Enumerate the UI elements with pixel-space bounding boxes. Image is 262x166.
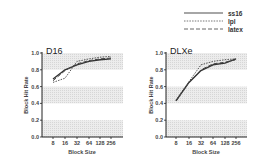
- figure: ss16 lpl latex 0.00.20.40.60.81.08163264…: [0, 0, 262, 166]
- x-tick-label: 8: [51, 140, 54, 146]
- y-axis-label: Block Hit Rate: [148, 76, 154, 113]
- shaded-band: [42, 87, 123, 104]
- legend: ss16 lpl latex: [184, 10, 243, 33]
- x-tick-label: 64: [210, 140, 217, 146]
- x-tick-label: 64: [86, 140, 93, 146]
- x-tick-label: 16: [62, 140, 68, 146]
- y-tick-label: 0.6: [31, 84, 39, 90]
- chart-title: DLXe: [170, 46, 193, 56]
- legend-item-lpl: lpl: [184, 18, 236, 26]
- y-tick-label: 0.4: [31, 100, 40, 106]
- x-tick-label: 8: [174, 140, 177, 146]
- legend-item-latex: latex: [184, 26, 243, 33]
- y-tick-label: 0.2: [155, 117, 163, 123]
- x-tick-label: 32: [74, 140, 80, 146]
- y-tick-label: 0.8: [155, 67, 163, 73]
- shaded-band: [166, 120, 247, 137]
- y-axis-label: Block Hit Rate: [23, 76, 29, 113]
- y-tick-label: 0.2: [31, 117, 39, 123]
- chart-dlxe: 0.00.20.40.60.81.08163264128256Block Siz…: [148, 46, 247, 155]
- x-tick-label: 32: [198, 140, 204, 146]
- x-tick-label: 128: [95, 140, 104, 146]
- y-tick-label: 1.0: [31, 50, 39, 56]
- x-tick-label: 128: [220, 140, 229, 146]
- y-tick-label: 0.8: [31, 67, 39, 73]
- y-tick-label: 1.0: [155, 50, 163, 56]
- y-tick-label: 0.6: [155, 84, 163, 90]
- x-axis-label: Block Size: [68, 149, 96, 155]
- x-tick-label: 256: [106, 140, 115, 146]
- y-tick-label: 0.4: [155, 100, 164, 106]
- legend-label: latex: [228, 26, 243, 33]
- x-axis-label: Block Size: [192, 149, 220, 155]
- chart-title: D16: [46, 46, 63, 56]
- legend-item-ss16: ss16: [184, 10, 243, 17]
- shaded-band: [42, 120, 123, 137]
- shaded-band: [166, 87, 247, 104]
- y-tick-label: 0.0: [155, 134, 163, 140]
- chart-d16: 0.00.20.40.60.81.08163264128256Block Siz…: [23, 46, 123, 155]
- legend-label: lpl: [228, 18, 236, 26]
- y-tick-label: 0.0: [31, 134, 39, 140]
- x-tick-label: 256: [231, 140, 240, 146]
- x-tick-label: 16: [186, 140, 192, 146]
- legend-label: ss16: [228, 10, 243, 17]
